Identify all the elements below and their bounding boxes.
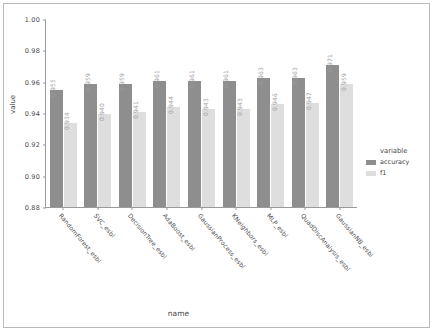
bar-value-label: 0.940 bbox=[98, 102, 105, 120]
bar-value-label: 0.944 bbox=[167, 96, 174, 114]
bar-value-label: 0.961 bbox=[153, 70, 160, 88]
bar-group: 0.9610.944AdaBoost_esbl bbox=[150, 20, 185, 207]
bar-value-label: 0.941 bbox=[132, 101, 139, 119]
bar-accuracy[interactable]: 0.959 bbox=[84, 84, 97, 207]
bar-value-label: 0.943 bbox=[236, 98, 243, 116]
bar-f1[interactable]: 0.944 bbox=[167, 107, 180, 207]
bar-group: 0.9550.934RandomForest_esbl bbox=[46, 20, 81, 207]
bar-accuracy[interactable]: 0.959 bbox=[119, 84, 132, 207]
legend-item-accuracy[interactable]: accuracy bbox=[366, 158, 428, 166]
bar-accuracy[interactable]: 0.955 bbox=[50, 90, 63, 207]
x-tick-mark bbox=[339, 207, 340, 210]
bar-value-label: 0.959 bbox=[340, 73, 347, 91]
bar-f1[interactable]: 0.943 bbox=[237, 109, 250, 207]
bar-value-label: 0.961 bbox=[188, 70, 195, 88]
bar-group: 0.9610.943KNeighbors_esbl bbox=[219, 20, 254, 207]
x-tick-mark bbox=[270, 207, 271, 210]
x-tick-mark bbox=[236, 207, 237, 210]
chart-figure: value name 1.000.980.960.940.920.900.88 … bbox=[0, 0, 433, 332]
bar-value-label: 0.961 bbox=[222, 70, 229, 88]
bar-value-label: 0.947 bbox=[305, 92, 312, 110]
legend-swatch-accuracy bbox=[366, 160, 376, 165]
y-axis-label: value bbox=[9, 95, 17, 114]
x-tick-mark bbox=[201, 207, 202, 210]
bar-accuracy[interactable]: 0.971 bbox=[326, 65, 339, 207]
bar-f1[interactable]: 0.934 bbox=[64, 123, 77, 207]
legend: variable accuracyf1 bbox=[366, 147, 428, 180]
x-tick-mark bbox=[63, 207, 64, 210]
legend-items: accuracyf1 bbox=[366, 158, 428, 177]
bar-group: 0.9710.959GaussianNB_esbl bbox=[323, 20, 358, 207]
x-tick-mark bbox=[97, 207, 98, 210]
bar-f1[interactable]: 0.947 bbox=[306, 103, 319, 207]
bar-f1[interactable]: 0.941 bbox=[133, 112, 146, 207]
x-tick-mark bbox=[305, 207, 306, 210]
bar-value-label: 0.943 bbox=[202, 98, 209, 116]
x-tick-mark bbox=[166, 207, 167, 210]
bar-group: 0.9590.940SVC_esbl bbox=[81, 20, 116, 207]
bar-accuracy[interactable]: 0.961 bbox=[153, 81, 166, 207]
bar-group: 0.9630.947QuadDiscAnalysis_esbl bbox=[288, 20, 323, 207]
bar-value-label: 0.963 bbox=[291, 67, 298, 85]
bar-accuracy[interactable]: 0.961 bbox=[188, 81, 201, 207]
x-axis-label: name bbox=[0, 309, 357, 318]
x-tick-mark bbox=[132, 207, 133, 210]
bar-value-label: 0.959 bbox=[84, 73, 91, 91]
bar-group: 0.9590.941DecisionTree_esbl bbox=[115, 20, 150, 207]
y-tick-mark bbox=[43, 208, 46, 209]
legend-label: accuracy bbox=[380, 158, 409, 166]
bar-value-label: 0.971 bbox=[326, 54, 333, 72]
bar-accuracy[interactable]: 0.963 bbox=[292, 78, 305, 207]
bar-f1[interactable]: 0.940 bbox=[98, 114, 111, 208]
bar-groups: 0.9550.934RandomForest_esbl0.9590.940SVC… bbox=[46, 20, 357, 207]
legend-swatch-f1 bbox=[366, 171, 376, 176]
bar-group: 0.9610.943GaussianProcess_esbl bbox=[184, 20, 219, 207]
bar-accuracy[interactable]: 0.963 bbox=[257, 78, 270, 207]
bar-f1[interactable]: 0.943 bbox=[202, 109, 215, 207]
bar-value-label: 0.959 bbox=[118, 73, 125, 91]
bar-value-label: 0.955 bbox=[49, 79, 56, 97]
plot-area: 1.000.980.960.940.920.900.88 0.9550.934R… bbox=[45, 20, 357, 208]
bar-accuracy[interactable]: 0.961 bbox=[223, 81, 236, 207]
bar-f1[interactable]: 0.959 bbox=[340, 84, 353, 207]
bar-value-label: 0.946 bbox=[271, 93, 278, 111]
legend-label: f1 bbox=[380, 169, 386, 177]
bar-group: 0.9630.946MLP_esbl bbox=[253, 20, 288, 207]
legend-title: variable bbox=[366, 147, 428, 155]
bar-f1[interactable]: 0.946 bbox=[271, 104, 284, 207]
bar-value-label: 0.934 bbox=[63, 112, 70, 130]
bar-value-label: 0.963 bbox=[257, 67, 264, 85]
legend-item-f1[interactable]: f1 bbox=[366, 169, 428, 177]
